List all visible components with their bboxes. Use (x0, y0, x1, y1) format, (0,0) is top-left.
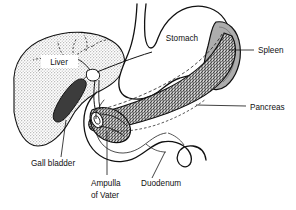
label-spleen: Spleen (258, 46, 284, 55)
label-stomach: Stomach (166, 34, 199, 43)
anatomy-figure: Liver Stomach Spleen Pancreas Gall bladd… (0, 0, 296, 210)
label-duodenum: Duodenum (141, 179, 181, 188)
label-ampulla-of-vater-line1: Ampulla (91, 179, 121, 188)
label-ampulla-of-vater-line2: of Vater (91, 191, 119, 200)
leader-duodenum (152, 152, 165, 178)
label-liver: Liver (50, 58, 68, 67)
label-pancreas: Pancreas (250, 103, 285, 112)
label-gall-bladder: Gall bladder (31, 159, 75, 168)
duct-junction (86, 69, 99, 81)
leader-pancreas (196, 105, 246, 106)
anatomy-diagram-svg: Liver Stomach Spleen Pancreas Gall bladd… (0, 0, 296, 210)
